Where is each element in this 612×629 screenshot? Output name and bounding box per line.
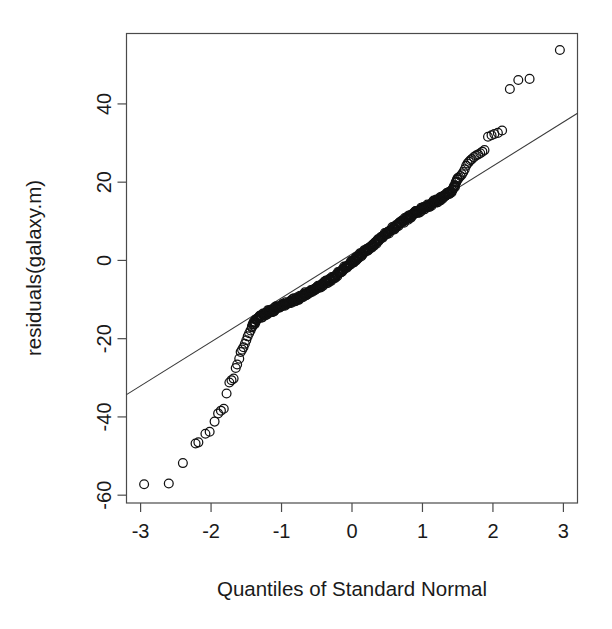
figure-background	[0, 0, 612, 629]
y-tick-label: -60	[94, 481, 116, 510]
y-tick-label: -20	[94, 324, 116, 353]
x-tick-label: 3	[558, 520, 569, 542]
plot-canvas: -3-2-10123 -60-40-2002040 Quantiles of S…	[0, 0, 612, 629]
qq-plot-figure: -3-2-10123 -60-40-2002040 Quantiles of S…	[0, 0, 612, 629]
y-tick-label: 0	[94, 255, 116, 266]
x-axis-title: Quantiles of Standard Normal	[217, 577, 487, 600]
y-tick-label: -40	[94, 402, 116, 431]
x-tick-label: -2	[202, 520, 220, 542]
y-tick-label: 40	[94, 93, 116, 115]
x-tick-label: -3	[132, 520, 150, 542]
x-tick-label: 1	[417, 520, 428, 542]
y-axis-title: residuals(galaxy.m)	[22, 180, 45, 356]
x-tick-label: 0	[346, 520, 357, 542]
x-tick-label: 2	[487, 520, 498, 542]
y-tick-label: 20	[94, 171, 116, 193]
x-tick-label: -1	[273, 520, 291, 542]
